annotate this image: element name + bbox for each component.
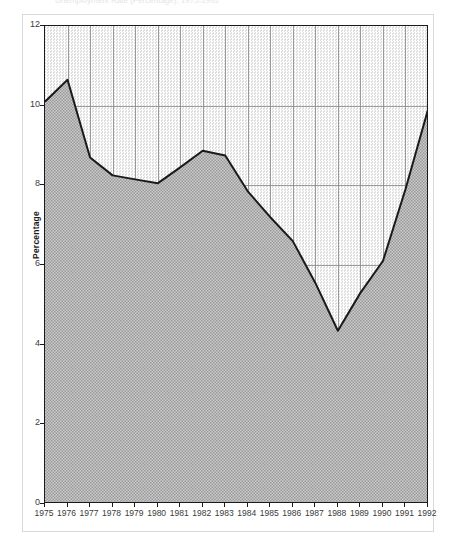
x-tick-mark [179, 502, 180, 507]
y-tick-label: 4 [4, 339, 40, 348]
y-tick-mark [40, 25, 44, 26]
x-axis: 1975197619771978197919801981198219831984… [0, 508, 450, 526]
y-tick-label: 2 [4, 418, 40, 427]
y-tick-mark [40, 344, 44, 345]
x-tick-mark [89, 502, 90, 507]
x-tick-mark [67, 502, 68, 507]
x-tick-mark [382, 502, 383, 507]
chart-title-text: Unemployment Rate (Percentage), 1975-199… [55, 0, 345, 5]
x-tick-mark [134, 502, 135, 507]
x-tick-mark [314, 502, 315, 507]
x-tick-mark [224, 502, 225, 507]
chart-title-clipped: Unemployment Rate (Percentage), 1975-199… [55, 0, 345, 9]
y-tick-mark [40, 105, 44, 106]
y-tick-label: 8 [4, 179, 40, 188]
x-tick-mark [359, 502, 360, 507]
x-tick-label: 1992 [412, 508, 442, 518]
y-axis-label: Percentage [31, 195, 41, 275]
area-fill [45, 80, 428, 503]
plot-area [44, 25, 428, 503]
y-tick-mark [40, 184, 44, 185]
x-tick-mark [112, 502, 113, 507]
x-tick-mark [157, 502, 158, 507]
y-tick-label: 0 [4, 498, 40, 507]
y-tick-label: 12 [4, 20, 40, 29]
x-tick-mark [44, 502, 45, 507]
x-tick-mark [247, 502, 248, 507]
y-tick-label: 10 [4, 100, 40, 109]
x-tick-mark [404, 502, 405, 507]
x-tick-mark [292, 502, 293, 507]
x-tick-mark [427, 502, 428, 507]
x-tick-mark [202, 502, 203, 507]
area-series [45, 26, 428, 503]
x-tick-mark [337, 502, 338, 507]
y-tick-mark [40, 423, 44, 424]
chart-figure: Unemployment Rate (Percentage), 1975-199… [0, 0, 450, 547]
x-tick-mark [269, 502, 270, 507]
